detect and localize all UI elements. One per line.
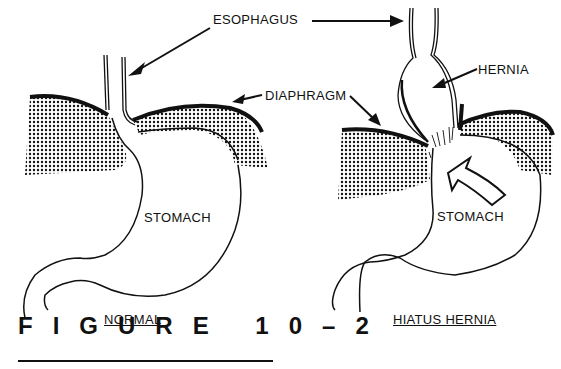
- diaphragm-left-normal: [25, 96, 126, 175]
- esophagus-label: ESOPHAGUS: [213, 12, 298, 27]
- hernia-label: HERNIA: [478, 62, 529, 77]
- stomach-label-normal: STOMACH: [144, 210, 211, 225]
- figure-caption: FIGURE 10–2: [18, 312, 389, 340]
- diaphragm-label: DIAPHRAGM: [265, 88, 346, 103]
- stomach-label-hernia: STOMACH: [437, 209, 504, 224]
- normal-panel: [24, 28, 268, 318]
- caption-underline: [18, 360, 273, 362]
- panel-title-hernia: HIATUS HERNIA: [393, 312, 496, 327]
- hernia-panel: [312, 8, 553, 312]
